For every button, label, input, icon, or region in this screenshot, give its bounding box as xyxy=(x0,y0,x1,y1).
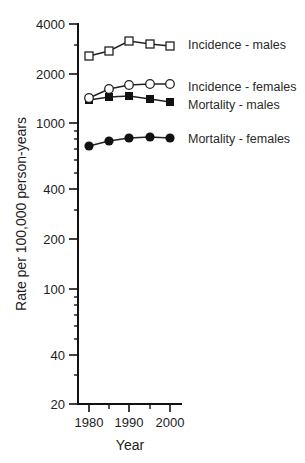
legend-incidence-females: Incidence - females xyxy=(188,80,296,94)
y-tick-20: 20 xyxy=(51,397,65,412)
data-point xyxy=(165,133,174,142)
data-point xyxy=(166,80,175,89)
data-point xyxy=(145,132,154,141)
y-tick-100: 100 xyxy=(43,282,65,297)
y-tick-400: 400 xyxy=(43,182,65,197)
y-tick-4000: 4000 xyxy=(36,17,65,32)
legend-mortality-males: Mortality - males xyxy=(188,98,280,112)
data-point xyxy=(84,141,93,150)
y-tick-2000: 2000 xyxy=(36,67,65,82)
x-tick-2000: 2000 xyxy=(156,415,185,430)
data-point xyxy=(124,133,133,142)
x-axis-title: Year xyxy=(116,437,145,453)
data-point xyxy=(105,47,113,55)
data-point xyxy=(85,52,93,60)
data-point xyxy=(166,42,174,50)
legend-incidence-males: Incidence - males xyxy=(188,38,286,52)
data-point xyxy=(104,136,113,145)
data-point xyxy=(146,95,154,103)
x-tick-1990: 1990 xyxy=(115,415,144,430)
data-point xyxy=(125,37,133,45)
data-point xyxy=(105,93,113,101)
legend: Incidence - males Incidence - females Mo… xyxy=(188,38,296,146)
chart: 4000 2000 1000 400 200 100 40 20 Rate pe… xyxy=(0,0,305,463)
data-point xyxy=(105,85,114,94)
data-point xyxy=(166,98,174,106)
legend-mortality-females: Mortality - females xyxy=(188,132,290,146)
y-tick-200: 200 xyxy=(43,232,65,247)
y-tick-1000: 1000 xyxy=(36,116,65,131)
data-point xyxy=(125,81,134,90)
data-point xyxy=(125,92,133,100)
x-tick-1980: 1980 xyxy=(75,415,104,430)
data-point xyxy=(146,80,155,89)
series-mortality-females xyxy=(84,132,174,150)
x-axis: 1980 1990 2000 Year xyxy=(75,404,185,453)
data-point xyxy=(146,40,154,48)
y-axis-title: Rate per 100,000 person-years xyxy=(13,117,29,311)
y-axis: 4000 2000 1000 400 200 100 40 20 Rate pe… xyxy=(13,17,78,412)
y-tick-40: 40 xyxy=(51,348,65,363)
series-incidence-males xyxy=(85,37,174,60)
data-point xyxy=(85,94,94,103)
